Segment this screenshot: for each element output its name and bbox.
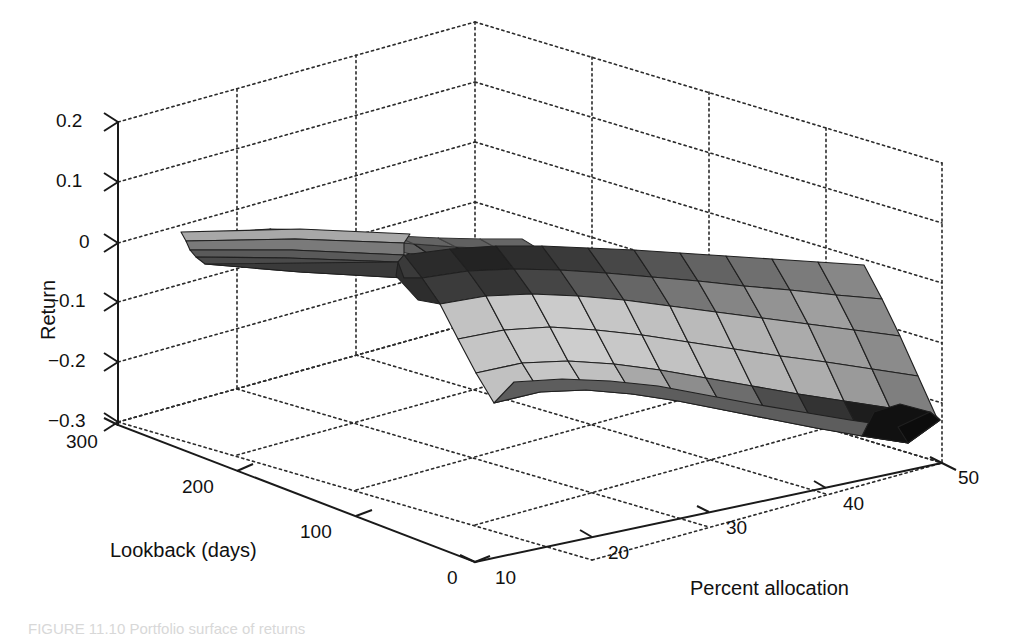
x-tick-label-20: 20 bbox=[608, 543, 629, 562]
x-axis-title: Percent allocation bbox=[690, 578, 849, 598]
x-tick-label-50: 50 bbox=[958, 468, 979, 487]
y-tick-label-0: 0 bbox=[447, 568, 458, 587]
x-tick-label-40: 40 bbox=[843, 494, 864, 513]
z-tick-label-2: 0 bbox=[79, 232, 90, 251]
figure-3d-surface-plot: 0.2 0.1 0 −0.1 −0.2 −0.3 Return 300 200 … bbox=[0, 0, 1011, 636]
z-tick-label-5: −0.3 bbox=[48, 411, 86, 430]
y-tick-label-300: 300 bbox=[66, 432, 98, 451]
z-tick-label-4: −0.2 bbox=[48, 351, 86, 370]
z-tick-label-0: 0.2 bbox=[56, 111, 82, 130]
z-axis-ticks bbox=[104, 113, 118, 431]
x-tick-label-10: 10 bbox=[495, 568, 516, 587]
figure-caption: FIGURE 11.10 Portfolio surface of return… bbox=[28, 620, 305, 636]
y-axis-title: Lookback (days) bbox=[110, 540, 257, 560]
z-axis-title: Return bbox=[38, 280, 58, 340]
x-tick-label-30: 30 bbox=[726, 518, 747, 537]
surface-left-tip bbox=[181, 229, 440, 304]
z-tick-label-1: 0.1 bbox=[56, 171, 82, 190]
y-tick-label-100: 100 bbox=[300, 522, 332, 541]
y-tick-label-200: 200 bbox=[182, 477, 214, 496]
